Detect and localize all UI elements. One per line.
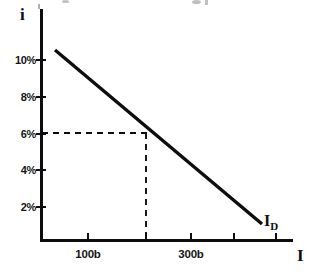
y-tick-mark [36, 59, 46, 61]
scan-artifact-top-left [62, 0, 69, 3]
x-tick-mark [87, 233, 89, 241]
x-tick-mark [275, 233, 277, 241]
x-tick-label: 100b [58, 248, 118, 261]
y-tick-label-wrap: 2% [0, 201, 36, 213]
plot-layer [0, 0, 330, 276]
y-tick-mark [36, 206, 46, 208]
y-tick-label-wrap: 8% [0, 91, 36, 103]
x-tick-mark [233, 233, 235, 241]
x-axis-title: I [297, 247, 304, 265]
x-tick-mark [190, 233, 192, 241]
demand-curve-label-subscript: D [270, 220, 278, 232]
y-tick-label-wrap: 10% [0, 54, 36, 66]
y-tick-label: 2% [2, 201, 36, 213]
x-tick-label: 300b [161, 248, 221, 261]
scan-artifact-top-right [192, 0, 201, 4]
y-tick-label: 10% [2, 54, 36, 66]
y-tick-mark [36, 169, 46, 171]
y-tick-label-wrap: 6% [0, 128, 36, 140]
demand-curve-label: ID [264, 212, 278, 232]
x-axis-line [40, 239, 293, 242]
x-tick-mark [145, 233, 147, 241]
y-tick-label-wrap: 4% [0, 164, 36, 176]
y-tick-mark [36, 133, 46, 135]
y-tick-label: 4% [2, 164, 36, 176]
y-tick-label: 6% [2, 128, 36, 140]
y-tick-label: 8% [2, 91, 36, 103]
chart-figure: i I 10%8%6%4%2% 100b300b ID [0, 0, 330, 276]
y-tick-mark [36, 96, 46, 98]
scan-artifact-top-right-2 [205, 0, 208, 5]
demand-curve-line [55, 50, 262, 224]
y-axis-title: i [20, 6, 25, 24]
